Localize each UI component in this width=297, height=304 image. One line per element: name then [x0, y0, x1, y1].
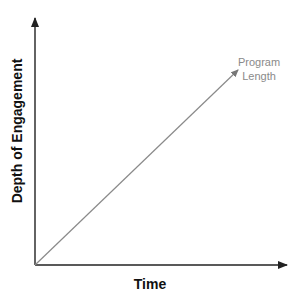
x-axis-title: Time: [134, 276, 167, 292]
line-label-length: Length: [242, 70, 276, 82]
program-length-line: [35, 70, 238, 265]
y-axis-title: Depth of Engagement: [9, 58, 25, 203]
engagement-diagram: Program Length Time Depth of Engagement: [0, 0, 297, 304]
line-label-program: Program: [238, 56, 280, 68]
